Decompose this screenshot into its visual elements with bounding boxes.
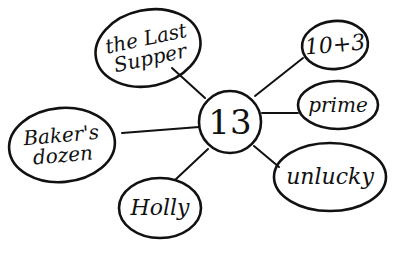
edge-ten-plus-three — [255, 58, 303, 96]
node-label-unlucky: unlucky — [286, 166, 374, 188]
node-label-prime: prime — [308, 95, 368, 115]
node-label-holly: Holly — [131, 197, 190, 219]
edge-bakers-dozen — [122, 127, 199, 133]
edge-holly — [175, 149, 208, 180]
edge-last-supper — [172, 68, 205, 98]
node-label-ten-plus-three: 10+3 — [304, 31, 366, 58]
center-node-label: 13 — [208, 105, 251, 139]
mind-map-diagram: 13 the Last Supper 10+3 prime unlucky Ba… — [0, 0, 409, 253]
edge-unlucky — [254, 146, 279, 167]
node-label-bakers-dozen: Baker's dozen — [22, 122, 101, 168]
